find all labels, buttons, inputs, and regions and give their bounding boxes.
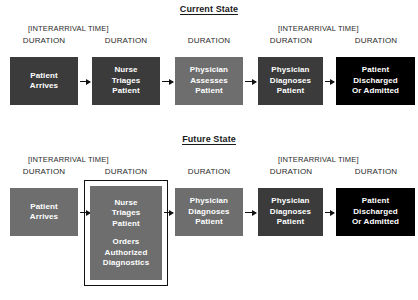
current-step-box-physician-assesses-patient[interactable]: Physician Assesses Patient [175, 57, 243, 105]
current-duration-2: DURATION [92, 36, 160, 45]
box-line: Diagnostics [103, 258, 149, 269]
current-interarrival-label-2: [INTERARRIVAL TIME] [278, 24, 359, 33]
box-line: Diagnoses [270, 207, 311, 218]
box-line: Discharged [353, 76, 398, 87]
future-step-box-patient-discharged-or-admitted[interactable]: Patient Discharged Or Admitted [336, 188, 415, 236]
box-line: Or Admitted [352, 217, 399, 228]
current-duration-3: DURATION [175, 36, 243, 45]
future-step-box-nurse-triages-patient-orders-diagnostics[interactable]: Nurse Triages Patient Orders Authorized … [90, 186, 162, 280]
current-duration-4: DURATION [257, 36, 325, 45]
current-arrow-4 [325, 81, 334, 82]
box-line: Patient [195, 217, 222, 228]
box-line: Physician [190, 196, 228, 207]
future-step-box-patient-arrives[interactable]: Patient Arrives [10, 188, 78, 236]
current-arrow-2 [162, 81, 173, 82]
box-line: Orders [113, 237, 140, 248]
current-state-title-text: Current State [180, 4, 238, 15]
future-duration-2: DURATION [92, 167, 160, 176]
box-line: Nurse [114, 65, 137, 76]
box-line: Physician [190, 65, 228, 76]
box-line: Physician [271, 65, 309, 76]
future-arrow-4 [325, 212, 334, 213]
current-step-box-patient-discharged-or-admitted[interactable]: Patient Discharged Or Admitted [336, 57, 415, 105]
future-state-title-text: Future State [182, 134, 236, 145]
current-state-title: Current State [0, 4, 418, 14]
box-line: Arrives [30, 81, 58, 92]
box-line: Patient [277, 86, 304, 97]
box-line: Arrives [30, 212, 58, 223]
current-arrow-3 [245, 81, 256, 82]
box-line: Patient [112, 86, 139, 97]
future-arrow-3 [245, 212, 256, 213]
box-line: Triages [112, 208, 141, 219]
box-line: Patient [30, 71, 57, 82]
current-duration-1: DURATION [10, 36, 78, 45]
box-line: Or Admitted [352, 86, 399, 97]
box-line: Diagnoses [188, 207, 229, 218]
current-duration-5: DURATION [337, 36, 415, 45]
future-duration-5: DURATION [337, 167, 415, 176]
box-line: Discharged [353, 207, 398, 218]
box-line: Triages [112, 76, 141, 87]
box-line: Authorized [105, 248, 148, 259]
box-line: Diagnoses [270, 76, 311, 87]
current-interarrival-label-1: [INTERARRIVAL TIME] [28, 24, 109, 33]
box-line: Nurse [114, 198, 137, 209]
future-state-title: Future State [0, 134, 418, 144]
current-step-box-nurse-triages-patient[interactable]: Nurse Triages Patient [92, 57, 160, 105]
current-step-box-patient-arrives[interactable]: Patient Arrives [10, 57, 78, 105]
future-arrow-2 [164, 212, 173, 213]
future-interarrival-label-1: [INTERARRIVAL TIME] [28, 155, 109, 164]
box-line: Assesses [190, 76, 228, 87]
box-line: Patient [362, 65, 389, 76]
future-step-box-physician-diagnoses-patient-2[interactable]: Physician Diagnoses Patient [258, 188, 323, 236]
box-line: Patient [362, 196, 389, 207]
future-step-box-physician-diagnoses-patient-1[interactable]: Physician Diagnoses Patient [175, 188, 243, 236]
current-step-box-physician-diagnoses-patient[interactable]: Physician Diagnoses Patient [258, 57, 323, 105]
future-duration-3: DURATION [175, 167, 243, 176]
box-line: Physician [271, 196, 309, 207]
box-line: Patient [30, 202, 57, 213]
future-interarrival-label-2: [INTERARRIVAL TIME] [278, 155, 359, 164]
current-arrow-1 [80, 81, 90, 82]
box-line: Patient [277, 217, 304, 228]
future-duration-1: DURATION [10, 167, 78, 176]
box-line: Patient [112, 219, 139, 230]
box-line: Patient [195, 86, 222, 97]
future-duration-4: DURATION [257, 167, 325, 176]
